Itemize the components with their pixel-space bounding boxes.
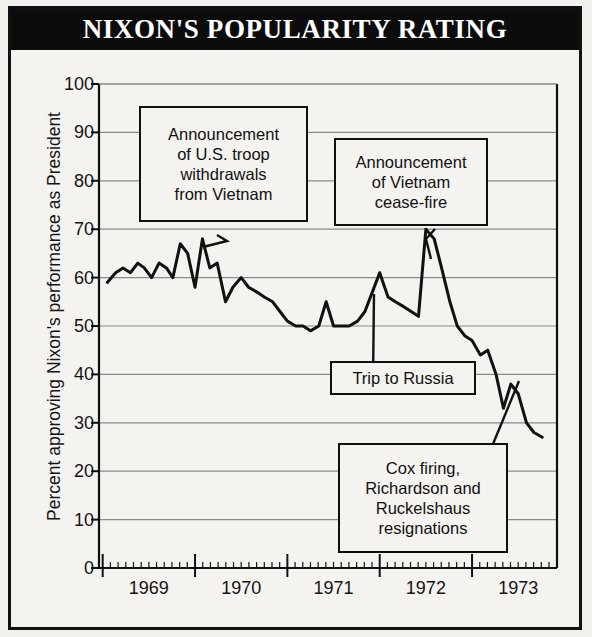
annotation-troop-withdrawals: Announcementof U.S. troopwithdrawalsfrom…: [139, 106, 308, 222]
y-tick-label: 0: [48, 558, 94, 579]
title-banner: NIXON'S POPULARITY RATING: [11, 9, 579, 50]
y-tick-label: 20: [48, 461, 94, 482]
annotation-text-line: withdrawals: [180, 164, 266, 184]
annotation-text-line: Trip to Russia: [352, 368, 453, 388]
x-tick-label: 1969: [129, 578, 169, 599]
annotation-text-line: Cox firing,: [386, 458, 460, 478]
annotation-text-line: resignations: [379, 518, 468, 538]
y-tick-label: 50: [48, 316, 94, 337]
annotation-trip-to-russia: Trip to Russia: [330, 361, 476, 395]
annotation-text-line: Richardson and: [365, 478, 481, 498]
annotation-cease-fire: Announcementof Vietnamcease-fire: [334, 138, 488, 226]
annotation-text-line: Announcement: [168, 124, 279, 144]
y-tick-label: 90: [48, 122, 94, 143]
annotation-text-line: of Vietnam: [372, 172, 451, 192]
y-tick-label: 60: [48, 267, 94, 288]
annotation-text-line: cease-fire: [375, 192, 447, 212]
y-tick-label: 70: [48, 219, 94, 240]
annotation-text-line: Announcement: [356, 152, 467, 172]
y-tick-label: 10: [48, 509, 94, 530]
y-tick-label: 40: [48, 364, 94, 385]
page-title: NIXON'S POPULARITY RATING: [83, 14, 508, 45]
annotation-text-line: from Vietnam: [175, 184, 273, 204]
y-tick-label: 100: [48, 74, 94, 95]
chart-figure: NIXON'S POPULARITY RATING Percent approv…: [0, 0, 592, 637]
y-tick-label: 80: [48, 170, 94, 191]
y-tick-label: 30: [48, 412, 94, 433]
x-tick-label: 1972: [406, 578, 446, 599]
annotation-leader-lines: [203, 229, 519, 444]
x-tick-label: 1973: [498, 578, 538, 599]
x-tick-label: 1970: [221, 578, 261, 599]
annotation-text-line: Ruckelshaus: [376, 498, 470, 518]
x-axis-tick-labels: 19691970197119721973: [99, 578, 557, 608]
annotation-text-line: of U.S. troop: [177, 144, 270, 164]
data-series-line: [107, 229, 542, 437]
x-tick-label: 1971: [314, 578, 354, 599]
y-axis-tick-labels: 0102030405060708090100: [44, 84, 94, 568]
annotation-cox-firing: Cox firing,Richardson andRuckelshausresi…: [338, 443, 508, 553]
